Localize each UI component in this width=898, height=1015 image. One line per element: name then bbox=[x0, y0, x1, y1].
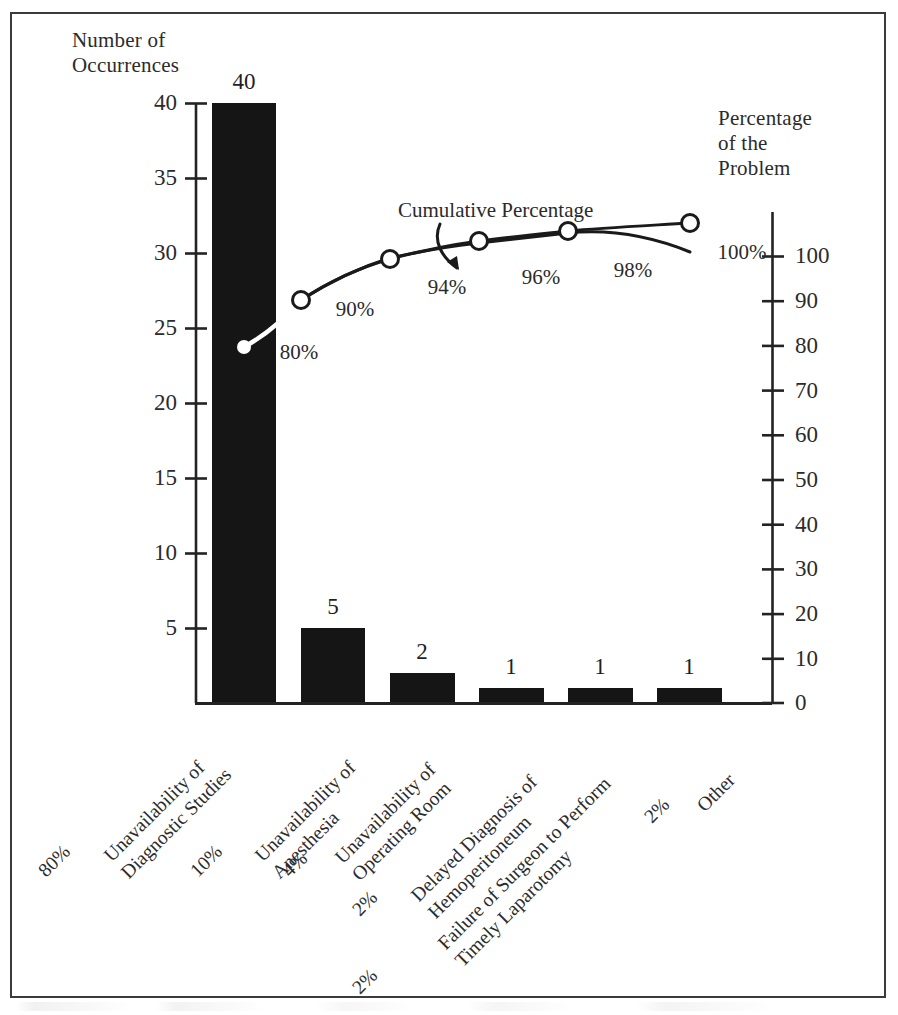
cumulative-marker-4 bbox=[471, 233, 488, 250]
right-tick-label-70: 70 bbox=[795, 378, 818, 404]
right-tick-label-40: 40 bbox=[795, 512, 818, 538]
cumulative-percentage-annotation: Cumulative Percentage bbox=[398, 198, 593, 223]
right-tick-label-20: 20 bbox=[795, 601, 818, 627]
left-tick-label-25: 25 bbox=[154, 315, 177, 341]
pareto-chart-page: Number of Occurrences Percentage of the … bbox=[0, 0, 898, 1015]
bar-3 bbox=[390, 673, 455, 703]
right-tick-label-90: 90 bbox=[795, 288, 818, 314]
right-tick-label-0: 0 bbox=[795, 690, 807, 716]
right-tick-label-50: 50 bbox=[795, 467, 818, 493]
cumulative-marker-2 bbox=[293, 292, 310, 309]
left-axis-title: Number of Occurrences bbox=[72, 28, 179, 78]
right-tick-label-80: 80 bbox=[795, 333, 818, 359]
left-tick-label-10: 10 bbox=[154, 540, 177, 566]
left-tick-label-35: 35 bbox=[154, 165, 177, 191]
cumulative-label-4: 96% bbox=[522, 265, 561, 290]
bar-value-3: 2 bbox=[416, 639, 428, 665]
cumulative-label-1: 80% bbox=[280, 340, 319, 365]
cumulative-label-2: 90% bbox=[336, 297, 375, 322]
bar-value-1: 40 bbox=[233, 69, 256, 95]
bar-value-4: 1 bbox=[505, 654, 517, 680]
bars-group bbox=[212, 103, 722, 703]
left-tick-label-5: 5 bbox=[166, 615, 178, 641]
left-tick-label-15: 15 bbox=[154, 465, 177, 491]
bar-value-6: 1 bbox=[683, 654, 695, 680]
bar-2 bbox=[301, 628, 365, 703]
right-tick-label-100: 100 bbox=[795, 243, 830, 269]
cumulative-line-group bbox=[237, 215, 699, 355]
right-tick-label-10: 10 bbox=[795, 646, 818, 672]
bar-6 bbox=[657, 688, 722, 703]
right-tick-label-60: 60 bbox=[795, 422, 818, 448]
cumulative-marker-1 bbox=[237, 340, 251, 354]
right-axis bbox=[762, 212, 784, 703]
right-tick-label-30: 30 bbox=[795, 556, 818, 582]
bar-value-2: 5 bbox=[327, 594, 339, 620]
left-tick-label-40: 40 bbox=[154, 90, 177, 116]
cumulative-label-6: 100% bbox=[718, 240, 767, 265]
bar-4 bbox=[479, 688, 544, 703]
left-tick-label-20: 20 bbox=[154, 390, 177, 416]
cumulative-marker-5 bbox=[560, 223, 577, 240]
cumulative-marker-6 bbox=[682, 215, 699, 232]
left-tick-label-30: 30 bbox=[154, 240, 177, 266]
left-axis bbox=[185, 103, 207, 703]
cumulative-label-5: 98% bbox=[614, 258, 653, 283]
cumulative-label-3: 94% bbox=[428, 275, 467, 300]
bar-5 bbox=[568, 688, 633, 703]
page-bottom-artifact bbox=[16, 1002, 836, 1011]
bar-1 bbox=[212, 103, 276, 703]
cumulative-marker-3 bbox=[382, 251, 399, 268]
bar-value-5: 1 bbox=[594, 654, 606, 680]
right-axis-title: Percentage of the Problem bbox=[718, 106, 812, 181]
